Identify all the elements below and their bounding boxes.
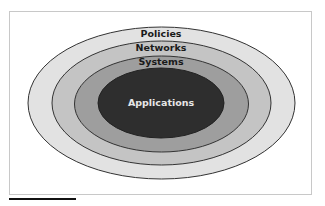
concentric-layers-diagram: Policies Networks Systems Applications [0, 0, 325, 206]
networks-label: Networks [136, 42, 187, 53]
systems-label: Systems [138, 56, 184, 67]
footnote-rule [9, 198, 76, 200]
applications-label: Applications [128, 97, 195, 108]
policies-label: Policies [141, 28, 182, 39]
